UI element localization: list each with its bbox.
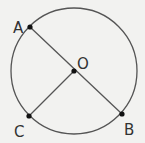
point-O	[71, 68, 76, 73]
circle-diagram: A B C O	[0, 0, 145, 143]
label-O: O	[77, 55, 89, 73]
label-C: C	[14, 123, 24, 141]
label-A: A	[13, 19, 24, 37]
point-C	[26, 113, 31, 118]
radius-OC	[29, 71, 74, 116]
label-B: B	[124, 121, 134, 139]
point-A	[27, 24, 32, 29]
point-B	[119, 111, 124, 116]
